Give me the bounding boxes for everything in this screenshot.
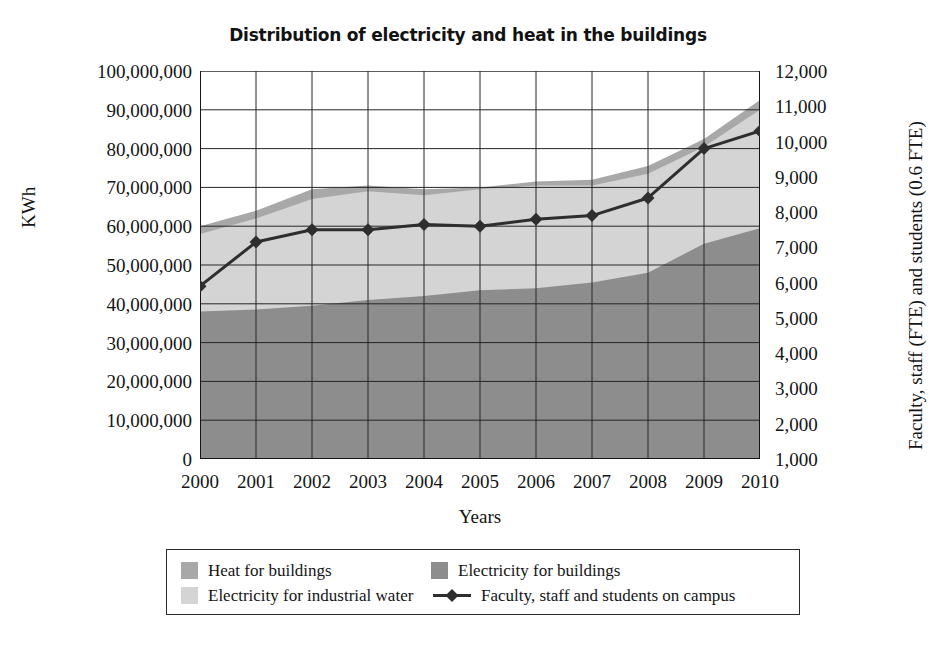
- y-axis-right-title: Faculty, staff (FTE) and students (0.6 F…: [905, 121, 927, 450]
- legend-item[interactable]: Faculty, staff and students on campus: [431, 587, 736, 604]
- y-axis-right-tick-label: 7,000: [775, 238, 818, 257]
- y-axis-left-tick-label: 70,000,000: [107, 178, 193, 197]
- x-axis-tick-label: 2000: [181, 472, 219, 491]
- x-axis-tick-label: 2006: [517, 472, 555, 491]
- y-axis-left-ticks: 010,000,00020,000,00030,000,00040,000,00…: [60, 71, 192, 459]
- x-axis-tick-label: 2010: [741, 472, 779, 491]
- legend-row: Electricity for industrial waterFaculty,…: [181, 583, 789, 608]
- y-axis-right-tick-label: 11,000: [775, 97, 827, 116]
- y-axis-left-tick-label: 50,000,000: [107, 256, 193, 275]
- y-axis-right-tick-label: 2,000: [775, 415, 818, 434]
- y-axis-right-tick-label: 3,000: [775, 379, 818, 398]
- chart-container: Distribution of electricity and heat in …: [0, 0, 936, 661]
- y-axis-right-ticks: 1,0002,0003,0004,0005,0006,0007,0008,000…: [775, 71, 875, 459]
- x-axis-tick-label: 2008: [629, 472, 667, 491]
- x-axis-tick-label: 2002: [293, 472, 331, 491]
- legend-swatch-icon: [181, 587, 198, 604]
- y-axis-right-tick-label: 4,000: [775, 344, 818, 363]
- x-axis-tick-label: 2007: [573, 472, 611, 491]
- y-axis-left-tick-label: 40,000,000: [107, 295, 193, 314]
- y-axis-right-tick-label: 8,000: [775, 203, 818, 222]
- legend-item-label: Heat for buildings: [208, 562, 332, 579]
- y-axis-left-tick-label: 10,000,000: [107, 411, 193, 430]
- y-axis-left-tick-label: 80,000,000: [107, 140, 193, 159]
- legend-item-label: Electricity for industrial water: [208, 587, 413, 604]
- legend-item-label: Faculty, staff and students on campus: [481, 587, 736, 604]
- y-axis-left-tick-label: 90,000,000: [107, 101, 193, 120]
- legend-item[interactable]: Heat for buildings: [181, 562, 431, 579]
- y-axis-left-tick-label: 20,000,000: [107, 372, 193, 391]
- legend-diamond: [446, 589, 459, 602]
- x-axis-ticks: 2000200120022003200420052006200720082009…: [200, 472, 760, 498]
- x-axis-tick-label: 2001: [237, 472, 275, 491]
- legend-row: Heat for buildingsElectricity for buildi…: [181, 558, 789, 583]
- legend-item[interactable]: Electricity for buildings: [431, 562, 620, 579]
- y-axis-right-tick-label: 1,000: [775, 450, 818, 469]
- y-axis-left-title: KWh: [18, 187, 40, 228]
- chart-legend: Heat for buildingsElectricity for buildi…: [166, 549, 800, 615]
- y-axis-right-tick-label: 6,000: [775, 274, 818, 293]
- legend-swatch-icon: [431, 562, 448, 579]
- y-axis-right-tick-label: 10,000: [775, 133, 827, 152]
- legend-diamond-line-icon: [431, 587, 473, 604]
- y-axis-left-tick-label: 0: [183, 450, 193, 469]
- legend-item-label: Electricity for buildings: [458, 562, 620, 579]
- y-axis-right-tick-label: 5,000: [775, 309, 818, 328]
- x-axis-tick-label: 2009: [685, 472, 723, 491]
- y-axis-right-tick-label: 9,000: [775, 168, 818, 187]
- x-axis-tick-label: 2005: [461, 472, 499, 491]
- y-axis-left-tick-label: 100,000,000: [97, 62, 192, 81]
- y-axis-left-tick-label: 60,000,000: [107, 217, 193, 236]
- x-axis-tick-label: 2003: [349, 472, 387, 491]
- legend-swatch-icon: [181, 562, 198, 579]
- x-axis-title: Years: [200, 506, 760, 528]
- y-axis-right-tick-label: 12,000: [775, 62, 827, 81]
- chart-plot-svg: [200, 71, 760, 459]
- plot-area: [200, 71, 760, 459]
- x-axis-tick-label: 2004: [405, 472, 443, 491]
- chart-title: Distribution of electricity and heat in …: [0, 25, 936, 45]
- y-axis-left-tick-label: 30,000,000: [107, 334, 193, 353]
- legend-item[interactable]: Electricity for industrial water: [181, 587, 431, 604]
